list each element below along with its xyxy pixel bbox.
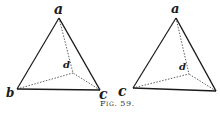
label-right-a: a bbox=[171, 2, 179, 15]
left-tetrahedron bbox=[17, 18, 100, 90]
label-left-d: d bbox=[63, 60, 70, 70]
label-right-d: d bbox=[179, 62, 186, 72]
label-right-c: c bbox=[118, 84, 127, 98]
right-tetrahedron bbox=[133, 18, 216, 91]
label-left-a: a bbox=[54, 2, 63, 16]
label-left-b: b bbox=[6, 87, 14, 99]
figure-caption: Fig. 59. bbox=[100, 99, 135, 108]
